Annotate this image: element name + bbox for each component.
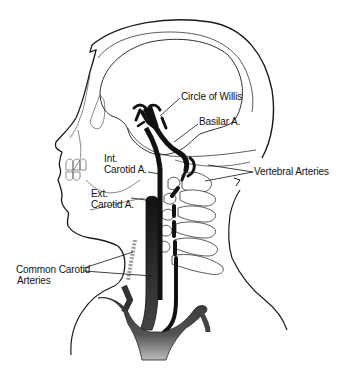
teeth (66, 159, 86, 180)
label-int-carotid-line2: Carotid A. (104, 164, 147, 175)
head-neck-illustration (0, 0, 345, 368)
anatomy-diagram: Circle of Willis Basilar A. Int. Carotid… (0, 0, 345, 368)
cervical-vertebrae (158, 172, 223, 274)
label-int-carotid-line1: Int. (104, 153, 118, 164)
label-common-carotid-line1: Common Carotid (16, 264, 90, 275)
label-ext-carotid-line1: Ext. (91, 188, 108, 199)
neck-back-outline (229, 190, 287, 330)
label-ext-carotid-line2: Carotid A. (91, 199, 134, 210)
label-basilar-artery: Basilar A. (199, 116, 240, 127)
common-carotid-artery (140, 196, 158, 330)
label-circle-of-willis: Circle of Willis (181, 91, 242, 102)
skull-outline (92, 20, 274, 158)
neck-front-outline (71, 272, 124, 355)
label-common-carotid-line2: Arteries (17, 275, 51, 286)
label-vertebral-arteries: Vertebral Arteries (254, 166, 329, 177)
